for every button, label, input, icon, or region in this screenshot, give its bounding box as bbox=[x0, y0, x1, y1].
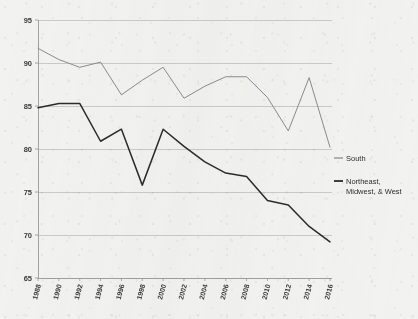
series-line-northeast-midwest-west bbox=[38, 103, 330, 241]
x-axis-tick-label: 2002 bbox=[177, 283, 188, 300]
x-axis-tick-label: 1994 bbox=[94, 283, 105, 300]
y-axis-ticks-group: 95908580757065 bbox=[24, 16, 38, 283]
y-axis-tick-label: 80 bbox=[24, 145, 32, 154]
legend-label-northeast-line1: Northeast, bbox=[346, 177, 381, 186]
x-axis-tick-label: 1992 bbox=[73, 283, 84, 300]
y-axis-tick-label: 75 bbox=[24, 188, 32, 197]
x-axis-ticks-group: 1988199019921994199619982000200220042006… bbox=[31, 278, 334, 300]
x-axis-tick-label: 1990 bbox=[52, 283, 63, 300]
y-axis-tick-label: 70 bbox=[24, 231, 32, 240]
legend-label-northeast-line2: Midwest, & West bbox=[346, 187, 403, 196]
x-axis-tick-label: 2016 bbox=[323, 283, 334, 300]
x-axis-tick-label: 1988 bbox=[31, 283, 42, 300]
data-series-group bbox=[38, 48, 330, 242]
x-axis-tick-label: 2014 bbox=[302, 283, 313, 300]
x-axis-tick-label: 2004 bbox=[198, 283, 209, 300]
y-axis-tick-label: 95 bbox=[24, 16, 32, 25]
x-axis-tick-label: 2006 bbox=[219, 283, 230, 300]
line-chart: 95908580757065 1988199019921994199619982… bbox=[0, 0, 418, 319]
y-axis-tick-label: 85 bbox=[24, 102, 32, 111]
legend-label-south: South bbox=[346, 154, 366, 163]
x-axis-tick-label: 2008 bbox=[240, 283, 251, 300]
x-axis-tick-label: 1998 bbox=[135, 283, 146, 300]
chart-container: 95908580757065 1988199019921994199619982… bbox=[0, 0, 418, 319]
x-axis-tick-label: 1996 bbox=[115, 283, 126, 300]
y-axis-tick-label: 90 bbox=[24, 59, 32, 68]
x-axis-tick-label: 2000 bbox=[156, 283, 167, 300]
x-axis-tick-label: 2012 bbox=[281, 283, 292, 300]
chart-legend: SouthNortheast,Midwest, & West bbox=[334, 154, 403, 196]
gridlines-group bbox=[38, 20, 332, 278]
x-axis-tick-label: 2010 bbox=[261, 283, 272, 300]
y-axis-tick-label: 65 bbox=[24, 274, 32, 283]
